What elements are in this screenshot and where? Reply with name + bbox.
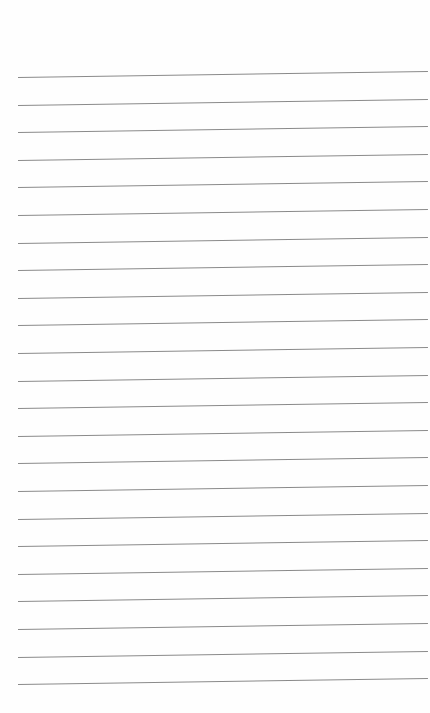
ruled-line	[18, 99, 428, 106]
ruled-line	[18, 595, 428, 602]
ruled-line	[18, 292, 428, 299]
ruled-line	[18, 347, 428, 354]
ruled-line	[18, 154, 428, 161]
ruled-line	[18, 540, 428, 547]
ruled-line	[18, 430, 428, 437]
ruled-line	[18, 402, 428, 409]
ruled-line	[18, 209, 428, 216]
lined-paper-page	[0, 0, 430, 713]
ruled-line	[18, 485, 428, 492]
ruled-line	[18, 181, 428, 188]
ruled-line	[18, 126, 428, 133]
ruled-line	[18, 651, 428, 658]
ruled-line	[18, 513, 428, 520]
ruled-line	[18, 71, 428, 78]
ruled-line	[18, 457, 428, 464]
ruled-line	[18, 678, 428, 685]
ruled-line	[18, 375, 428, 382]
ruled-line	[18, 623, 428, 630]
ruled-line	[18, 237, 428, 244]
ruled-line	[18, 264, 428, 271]
ruled-line	[18, 319, 428, 326]
ruled-line	[18, 568, 428, 575]
